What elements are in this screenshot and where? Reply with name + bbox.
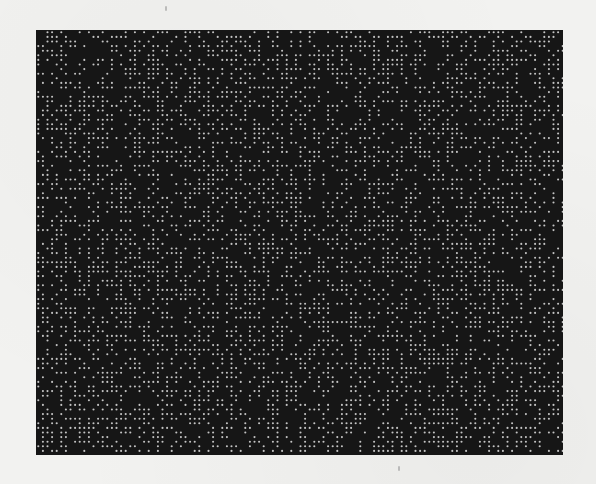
scan-speck: [398, 466, 400, 471]
scan-speck: [165, 6, 167, 11]
random-dot-pattern-figure: [36, 30, 563, 455]
